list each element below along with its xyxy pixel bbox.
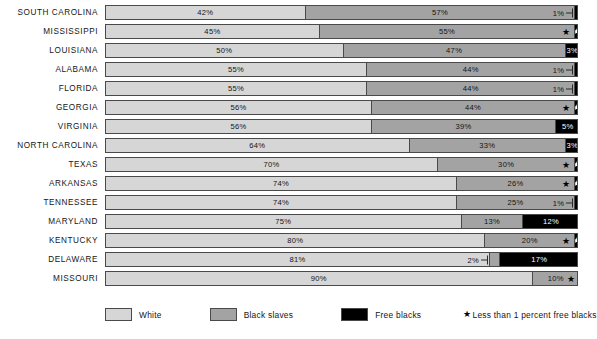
table-row: LOUISIANA50%47%3% (0, 41, 583, 60)
state-label: LOUISIANA (0, 41, 98, 60)
segment-value-label: 56% (230, 103, 246, 112)
table-row: ARKANSAS74%26%★★ (0, 174, 583, 193)
segment-black-slaves: 33% (409, 139, 565, 152)
stacked-bar: 42%57% (105, 5, 578, 20)
table-row: VIRGINIA56%39%5% (0, 117, 583, 136)
segment-free-blacks: 12% (522, 215, 578, 228)
segment-value-label: 74% (273, 198, 289, 207)
segment-free-blacks (574, 6, 578, 19)
segment-value-label: 47% (446, 46, 462, 55)
state-label: MISSOURI (0, 269, 98, 288)
star-icon: ★ (574, 27, 578, 36)
stacked-bar: 55%44% (105, 81, 578, 96)
leader-line (566, 88, 573, 89)
segment-black-slaves: 13% (461, 215, 522, 228)
state-label: NORTH CAROLINA (0, 136, 98, 155)
segment-free-blacks: ★ (574, 158, 578, 171)
legend-item-black-slaves: Black slaves (210, 308, 294, 321)
table-row: MISSISSIPPI45%55%★★ (0, 22, 583, 41)
stacked-bar: 45%55%★★ (105, 24, 578, 39)
stacked-bar: 81%17% (105, 252, 578, 267)
table-row: TEXAS70%30%★★ (0, 155, 583, 174)
stacked-bar: 70%30%★★ (105, 157, 578, 172)
table-row: SOUTH CAROLINA42%57%1% (0, 3, 583, 22)
segment-black-slaves: 20%★ (484, 234, 574, 247)
table-row: MISSOURI90%10%★ (0, 269, 583, 288)
segment-value-label: 17% (531, 255, 547, 264)
segment-free-blacks: ★ (574, 25, 578, 38)
segment-value-label: 57% (432, 8, 448, 17)
segment-value-label: 5% (562, 122, 574, 131)
state-label: MISSISSIPPI (0, 22, 98, 41)
star-icon: ★ (562, 27, 570, 37)
legend-item-white: White (105, 308, 162, 321)
segment-value-label: 45% (204, 27, 220, 36)
state-label: TEXAS (0, 155, 98, 174)
segment-black-slaves: 26%★ (456, 177, 574, 190)
leader-line (481, 259, 488, 260)
legend-label-free-blacks: Free blacks (375, 310, 421, 320)
legend-swatch-white (105, 308, 132, 321)
stacked-bar: 64%33%3% (105, 138, 578, 153)
leader-line (566, 12, 573, 13)
segment-value-label: 39% (456, 122, 472, 131)
star-icon: ★ (574, 179, 578, 188)
segment-black-slaves: 55%★ (319, 25, 574, 38)
segment-value-label: 74% (273, 179, 289, 188)
segment-white: 80% (106, 234, 484, 247)
segment-value-label: 3% (567, 46, 578, 55)
legend-label-black-slaves: Black slaves (244, 310, 294, 320)
segment-value-label: 33% (479, 141, 495, 150)
stacked-bar: 56%39%5% (105, 119, 578, 134)
table-row: FLORIDA55%44%1% (0, 79, 583, 98)
table-row: TENNESSEE74%25%1% (0, 193, 583, 212)
segment-free-blacks: 3% (565, 44, 578, 57)
segment-value-label: 26% (508, 179, 524, 188)
segment-free-blacks: 17% (499, 253, 578, 266)
segment-value-label: 12% (543, 217, 559, 226)
leader-line (566, 69, 573, 70)
segment-white: 45% (106, 25, 319, 38)
table-row: ALABAMA55%44%1% (0, 60, 583, 79)
table-row: DELAWARE81%17%2% (0, 250, 583, 269)
state-label: VIRGINIA (0, 117, 98, 136)
segment-black-slaves: 57% (305, 6, 575, 19)
segment-black-slaves (489, 253, 498, 266)
segment-value-label: 81% (290, 255, 306, 264)
legend-item-free-blacks: Free blacks (341, 308, 421, 321)
segment-value-label: 90% (311, 274, 327, 283)
legend-swatch-free-blacks (341, 308, 368, 321)
segment-value-label: 30% (498, 160, 514, 169)
segment-white: 42% (106, 6, 305, 19)
segment-free-blacks (574, 82, 578, 95)
star-icon: ★ (562, 103, 570, 113)
legend-star-note: ★ Less than 1 percent free blacks (463, 310, 596, 320)
segment-black-slaves: 44%★ (371, 101, 574, 114)
segment-white: 50% (106, 44, 343, 57)
stacked-bar: 56%44%★★ (105, 100, 578, 115)
segment-white: 74% (106, 196, 456, 209)
segment-black-slaves: 44% (366, 63, 574, 76)
segment-free-blacks (574, 63, 578, 76)
legend-swatch-black-slaves (210, 308, 237, 321)
segment-value-label: 44% (463, 65, 479, 74)
legend-label-white: White (139, 310, 162, 320)
segment-black-slaves: 44% (366, 82, 574, 95)
segment-value-label: 20% (522, 236, 538, 245)
segment-value-label: 64% (249, 141, 265, 150)
segment-black-slaves: 25% (456, 196, 574, 209)
segment-value-label: 80% (287, 236, 303, 245)
segment-free-blacks: 5% (555, 120, 578, 133)
segment-free-blacks: 3% (565, 139, 578, 152)
star-icon: ★ (574, 160, 578, 169)
table-row: GEORGIA56%44%★★ (0, 98, 583, 117)
star-icon: ★ (562, 179, 570, 189)
segment-black-slaves: 47% (343, 44, 565, 57)
segment-value-label: 25% (508, 198, 524, 207)
chart-legend: White Black slaves Free blacks ★ Less th… (105, 308, 597, 321)
segment-value-label: 50% (216, 46, 232, 55)
segment-value-label: 44% (465, 103, 481, 112)
star-icon: ★ (567, 274, 575, 284)
segment-value-label: 42% (197, 8, 213, 17)
